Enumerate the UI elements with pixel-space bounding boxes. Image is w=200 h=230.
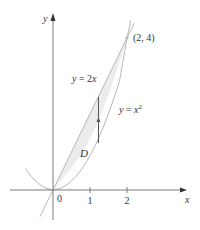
parabola-equation-eq: = — [123, 104, 134, 115]
line-equation-rest: = 2 — [76, 73, 92, 84]
parabola-equation-exponent: 2 — [139, 103, 143, 111]
parabola-equation-label: y = x2 — [118, 103, 143, 115]
origin-label: 0 — [57, 193, 62, 204]
intersection-point — [125, 36, 128, 39]
x-axis-arrow-icon — [180, 188, 187, 193]
parabola-curve-smooth — [25, 15, 131, 193]
y-axis-label: y — [42, 13, 48, 24]
y-axis-arrow-icon — [51, 13, 56, 21]
x-tick-label-2: 2 — [125, 195, 130, 206]
line-equation-label: y = 2x — [71, 73, 97, 84]
region-label: D — [79, 147, 88, 159]
parabola-curve — [25, 20, 130, 190]
region-diagram: y x 0 1 2 (2, 4) y = 2x y = x2 D — [0, 0, 200, 230]
intersection-label: (2, 4) — [133, 32, 155, 44]
x-tick-label-1: 1 — [88, 195, 93, 206]
x-axis-label: x — [184, 194, 190, 205]
line-equation-var: x — [91, 73, 97, 84]
line-y-equals-2x — [40, 23, 134, 217]
